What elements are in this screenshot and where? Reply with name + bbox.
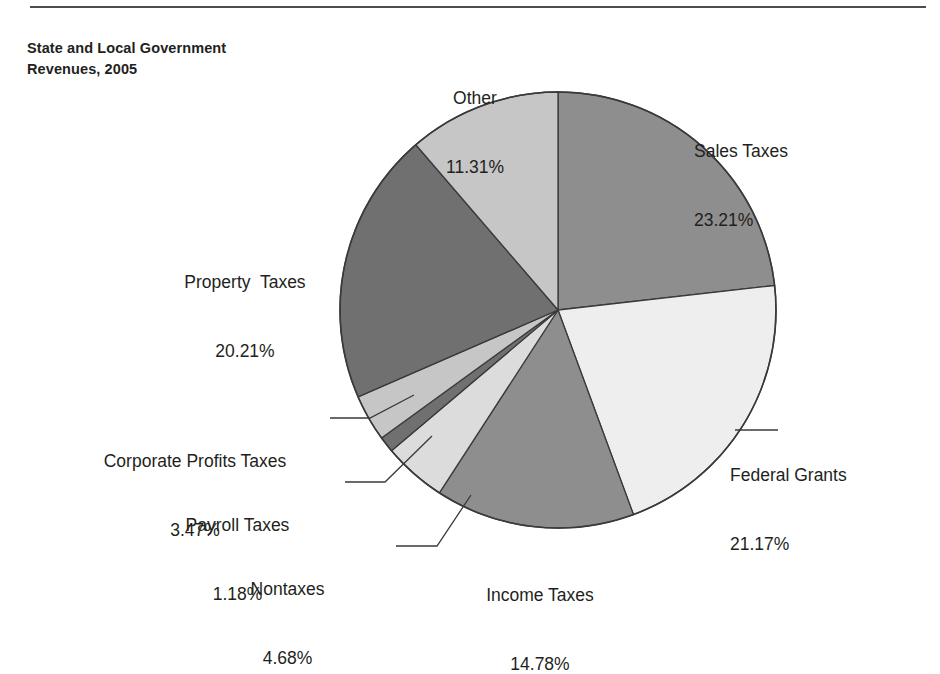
slice-label-nontaxes-value: 4.68% bbox=[180, 647, 395, 670]
slice-label-other-name: Other bbox=[400, 87, 550, 110]
slice-label-other-value: 11.31% bbox=[400, 156, 550, 179]
slice-label-sales-taxes: Sales Taxes 23.21% bbox=[694, 94, 894, 278]
slice-label-federal-grants-name: Federal Grants bbox=[730, 464, 935, 487]
slice-label-property-taxes-value: 20.21% bbox=[130, 340, 360, 363]
slice-label-nontaxes: Nontaxes 4.68% bbox=[180, 532, 395, 674]
slice-label-income-taxes-value: 14.78% bbox=[435, 653, 645, 674]
slice-label-sales-taxes-name: Sales Taxes bbox=[694, 140, 894, 163]
slice-label-sales-taxes-value: 23.21% bbox=[694, 209, 894, 232]
slice-label-nontaxes-name: Nontaxes bbox=[180, 578, 395, 601]
slice-label-property-taxes-name: Property Taxes bbox=[130, 271, 360, 294]
slice-label-income-taxes: Income Taxes 14.78% bbox=[435, 538, 645, 674]
slice-label-other: Other 11.31% bbox=[400, 41, 550, 225]
slice-label-income-taxes-name: Income Taxes bbox=[435, 584, 645, 607]
slice-label-property-taxes: Property Taxes 20.21% bbox=[130, 225, 360, 409]
slice-label-federal-grants-value: 21.17% bbox=[730, 533, 935, 556]
slice-label-federal-grants: Federal Grants 21.17% bbox=[730, 418, 935, 602]
